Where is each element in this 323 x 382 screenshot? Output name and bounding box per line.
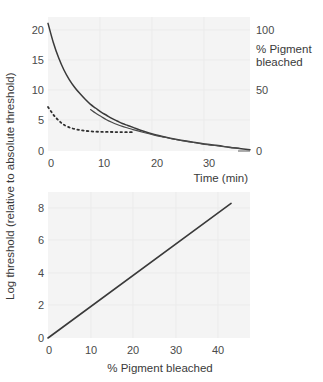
two-panel-line-chart: Log threshold (relative to absolute thre…	[0, 0, 323, 382]
upper-x-axis-title: Time (min)	[193, 172, 248, 184]
upper-y2-axis-title-line1: % Pigment	[256, 43, 312, 55]
lower-x-tick-labels: 0 10 20 30 40	[46, 344, 224, 356]
upper-ytick-5: 5	[38, 114, 44, 126]
upper-xtick-30: 30	[203, 157, 215, 169]
upper-ytick-15: 15	[32, 54, 44, 66]
upper-xtick-20: 20	[151, 157, 163, 169]
upper-panel: 20 15 10 5 0 100 50 0 % Pigment bleached…	[32, 17, 313, 184]
figure-container: Log threshold (relative to absolute thre…	[0, 0, 323, 382]
upper-y2tick-100: 100	[256, 24, 274, 36]
lower-ytick-4: 4	[38, 267, 44, 279]
lower-xtick-0: 0	[46, 344, 52, 356]
upper-y2tick-0: 0	[256, 145, 262, 157]
upper-xtick-10: 10	[98, 157, 110, 169]
shared-y-axis-title: Log threshold (relative to absolute thre…	[4, 72, 16, 300]
upper-ytick-10: 10	[32, 84, 44, 96]
lower-ytick-2: 2	[38, 299, 44, 311]
upper-xtick-0: 0	[48, 157, 54, 169]
upper-ytick-20: 20	[32, 24, 44, 36]
lower-y-tick-labels: 8 6 4 2 0	[38, 202, 44, 344]
lower-xtick-40: 40	[212, 344, 224, 356]
upper-ytick-0: 0	[38, 145, 44, 157]
upper-x-tick-labels: 0 10 20 30	[48, 157, 215, 169]
lower-xtick-20: 20	[127, 344, 139, 356]
lower-ytick-8: 8	[38, 202, 44, 214]
lower-x-axis-title: % Pigment bleached	[107, 362, 212, 374]
upper-panel-background	[48, 17, 250, 151]
upper-y2tick-50: 50	[256, 84, 268, 96]
lower-panel: 8 6 4 2 0 0 10 20 30 40 % Pigment bleach…	[38, 192, 250, 374]
lower-xtick-30: 30	[170, 344, 182, 356]
upper-y2-axis-title-line2: bleached	[256, 56, 303, 68]
lower-ytick-6: 6	[38, 234, 44, 246]
lower-ytick-0: 0	[38, 332, 44, 344]
upper-y-tick-labels: 20 15 10 5 0	[32, 24, 44, 157]
lower-xtick-10: 10	[85, 344, 97, 356]
